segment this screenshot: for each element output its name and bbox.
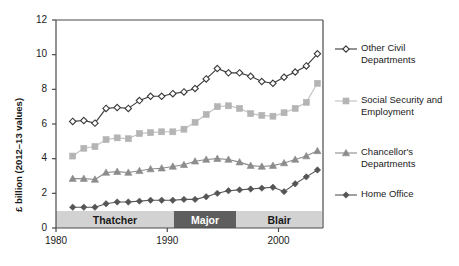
data-point-marker (92, 144, 98, 150)
data-point-marker (148, 130, 154, 136)
data-point-marker (236, 70, 242, 76)
x-tick-label: 1980 (36, 235, 76, 246)
data-point-marker (237, 105, 243, 111)
data-point-marker (292, 105, 298, 111)
pm-band-label: Blair (267, 214, 290, 226)
data-point-marker (114, 135, 120, 141)
y-tick-label: 10 (25, 48, 47, 59)
data-point-marker (81, 145, 87, 151)
data-point-marker (81, 204, 87, 210)
data-point-marker (170, 197, 176, 203)
data-point-marker (181, 196, 187, 202)
y-tick-label: 4 (25, 152, 47, 163)
y-tick-label: 6 (25, 118, 47, 129)
legend-item-3[interactable]: Chancellor'sDepartments (334, 146, 415, 169)
legend-label-line2: Employment (361, 106, 442, 118)
data-point-marker (314, 167, 320, 173)
data-point-marker (158, 197, 164, 203)
data-point-marker (270, 80, 276, 86)
data-point-marker (92, 204, 98, 210)
legend-item-1[interactable]: Other CivilDepartments (334, 42, 415, 65)
data-point-marker (192, 196, 198, 202)
legend-label-line1: Chancellor's (361, 146, 415, 158)
data-point-marker (170, 90, 176, 96)
data-point-marker (136, 198, 142, 204)
data-point-marker (70, 153, 76, 159)
legend-label-line1: Social Security and (361, 94, 442, 106)
data-point-marker (270, 113, 276, 119)
pm-band-label: Major (191, 214, 219, 226)
legend-label: Other CivilDepartments (358, 42, 415, 65)
data-point-marker (303, 174, 309, 180)
data-point-marker (314, 147, 321, 153)
y-tick-label: 12 (25, 14, 47, 25)
data-point-marker (259, 112, 265, 118)
legend-label-line2: Departments (361, 158, 415, 170)
data-point-marker (292, 69, 298, 75)
data-point-marker (281, 110, 287, 116)
data-point-marker (214, 104, 220, 110)
data-point-marker (247, 73, 253, 79)
data-point-marker (259, 78, 265, 84)
x-tick-label: 2000 (259, 235, 299, 246)
legend-label: Chancellor'sDepartments (358, 146, 415, 169)
data-point-marker (81, 117, 87, 123)
data-point-marker (236, 187, 242, 193)
data-point-marker (203, 194, 209, 200)
data-point-marker (69, 118, 75, 124)
legend-label: Social Security andEmployment (358, 94, 442, 117)
legend-marker-icon (334, 147, 358, 159)
plot-area: ThatcherMajorBlair (0, 0, 459, 266)
data-point-marker (192, 119, 198, 125)
data-point-marker (181, 89, 187, 95)
data-point-marker (303, 152, 310, 158)
data-point-marker (69, 204, 75, 210)
data-point-marker (247, 186, 253, 192)
data-point-marker (248, 111, 254, 117)
data-point-marker (203, 111, 209, 117)
data-point-marker (343, 192, 349, 198)
series-3 (69, 147, 321, 182)
legend-label-line1: Home Office (361, 188, 414, 200)
y-axis-title: £ billion (2012–13 values) (13, 98, 24, 212)
legend-item-2[interactable]: Social Security andEmployment (334, 94, 442, 117)
data-point-marker (303, 99, 309, 105)
legend-label-line1: Other Civil (361, 42, 415, 54)
legend-marker-icon (334, 189, 358, 201)
x-tick-label: 1990 (147, 235, 187, 246)
data-point-marker (159, 129, 165, 135)
data-point-marker (270, 184, 276, 190)
data-point-marker (136, 131, 142, 137)
data-point-marker (125, 199, 131, 205)
legend-item-4[interactable]: Home Office (334, 188, 414, 201)
data-point-marker (114, 199, 120, 205)
data-point-marker (214, 155, 221, 161)
y-tick-label: 8 (25, 83, 47, 94)
y-tick-label: 0 (25, 222, 47, 233)
legend-label: Home Office (358, 188, 414, 200)
data-point-marker (225, 103, 231, 109)
data-point-marker (225, 70, 231, 76)
data-point-marker (343, 98, 349, 104)
data-point-marker (343, 46, 349, 52)
chart-container: £ billion (2012–13 values) 024681012 198… (0, 0, 459, 266)
data-point-marker (225, 188, 231, 194)
legend-marker-icon (334, 95, 358, 107)
y-tick-label: 2 (25, 187, 47, 198)
pm-band-label: Thatcher (93, 214, 137, 226)
data-point-marker (114, 104, 120, 110)
data-point-marker (158, 93, 164, 99)
data-point-marker (147, 197, 153, 203)
data-point-marker (125, 136, 131, 142)
legend-marker-icon (334, 43, 358, 55)
data-point-marker (181, 126, 187, 132)
data-point-marker (147, 93, 153, 99)
data-point-marker (103, 201, 109, 207)
data-point-marker (214, 190, 220, 196)
legend-label-line2: Departments (361, 54, 415, 66)
data-point-marker (259, 185, 265, 191)
data-point-marker (170, 129, 176, 135)
data-point-marker (114, 168, 121, 174)
data-point-marker (281, 74, 287, 80)
data-point-marker (103, 137, 109, 143)
